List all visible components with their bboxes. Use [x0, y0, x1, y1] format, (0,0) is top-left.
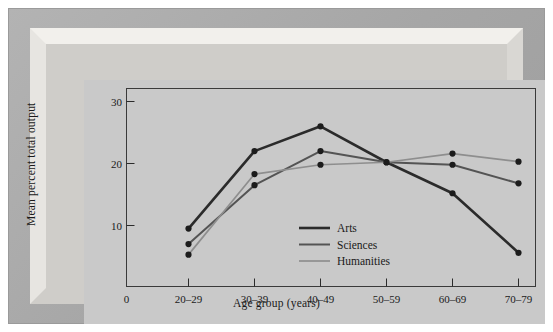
line-chart: 30 20 10 0 20–29: [84, 80, 545, 324]
data-point: [185, 226, 191, 232]
plot-surface: 30 20 10 0 20–29: [84, 80, 545, 324]
x-axis-ticks: [189, 279, 519, 287]
legend-label-sciences: Sciences: [337, 239, 378, 251]
data-point: [515, 159, 521, 165]
data-point: [449, 190, 455, 196]
data-point: [251, 148, 257, 154]
chart-svg: 30 20 10 0 20–29: [84, 80, 545, 324]
legend-label-arts: Arts: [337, 222, 357, 234]
frame-bevel-mat: 30 20 10 0 20–29: [30, 28, 523, 304]
data-point: [317, 123, 323, 129]
data-point: [185, 241, 191, 247]
series-arts: [185, 123, 521, 256]
x-axis-title: Age group (years): [8, 297, 545, 309]
data-point: [515, 180, 521, 186]
y-tick-label-30: 30: [111, 96, 123, 108]
legend-label-humanities: Humanities: [337, 255, 391, 267]
data-point: [515, 250, 521, 256]
y-axis-tick-labels: 30 20 10: [111, 96, 123, 232]
y-axis-ticks: [127, 102, 135, 226]
data-point: [449, 150, 455, 156]
data-point: [251, 171, 257, 177]
data-point: [383, 159, 389, 165]
y-tick-label-10: 10: [111, 220, 123, 232]
y-axis-title: Mean percent total output: [25, 103, 37, 226]
data-point: [317, 148, 323, 154]
y-tick-label-20: 20: [111, 158, 123, 170]
data-point: [449, 162, 455, 168]
chart-legend: ArtsSciencesHumanities: [299, 222, 391, 267]
data-point: [251, 182, 257, 188]
data-point: [317, 162, 323, 168]
data-point: [185, 252, 191, 258]
figure-frame: 30 20 10 0 20–29: [8, 8, 545, 324]
